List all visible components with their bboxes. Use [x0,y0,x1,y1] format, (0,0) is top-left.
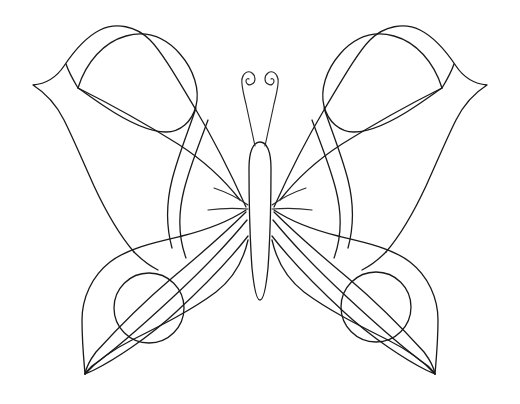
drawing-canvas: Butterfly Coloring Page Line Drawing [0,0,520,404]
left-antenna-curl-icon [242,72,255,85]
left-hinge-vein-a [214,188,248,205]
lower-right-wing [272,210,438,374]
upper-left-wing-outline [33,26,246,252]
lower-left-wing-vein-2 [85,220,247,374]
upper-right-wing-shoulder-notch [442,64,454,88]
right-antenna [265,79,278,146]
antennae [242,72,279,146]
upper-right-wing [274,26,487,270]
lower-right-wing-vein-2 [273,220,435,374]
upper-left-wing-lower-contour [134,252,158,270]
lower-left-wing [82,210,248,374]
upper-left-wing-band-edge [168,108,197,248]
left-hinge-vein-b [208,208,248,210]
upper-right-wing-lower-contour [362,252,386,270]
right-wing-spot [341,272,411,342]
right-hinge-vein-a [272,188,306,205]
left-antenna [242,79,255,146]
lower-right-wing-vein-1 [274,212,435,374]
left-wing-spot [114,273,184,343]
butterfly-line-drawing [0,0,520,404]
right-hinge-vein-b [272,208,312,210]
right-antenna-curl-icon [265,72,278,85]
body [249,142,271,300]
upper-right-wing-band-edge [324,108,353,248]
upper-left-wing-shoulder-notch [66,64,78,88]
upper-right-wing-outline [274,26,487,252]
lower-left-wing-vein-1 [85,212,246,374]
wing-hinge-veins [208,188,312,210]
upper-left-wing [33,26,246,270]
